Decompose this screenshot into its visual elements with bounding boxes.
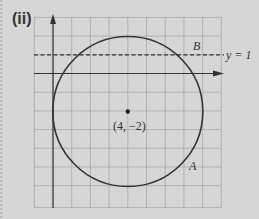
- point-a-label: A: [189, 159, 196, 174]
- point-b-label: B: [193, 39, 200, 54]
- diagram: [0, 0, 259, 219]
- line-label: y = 1: [226, 48, 251, 63]
- center-point: [126, 109, 130, 113]
- center-label: (4, −2): [113, 119, 146, 134]
- y-axis-arrow-icon: [50, 14, 56, 24]
- x-axis-arrow-icon: [213, 71, 224, 77]
- axes: [34, 20, 218, 208]
